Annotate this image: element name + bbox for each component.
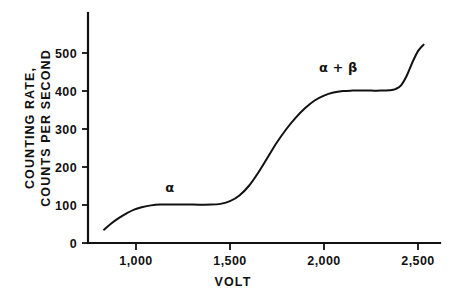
y-axis-ticks: 0100200300400500 <box>55 47 88 251</box>
y-axis-title-line2: COUNTS PER SECOND <box>39 49 53 207</box>
x-tick-label: 1,500 <box>213 254 246 268</box>
x-axis-title: VOLT <box>215 275 252 289</box>
alpha-plus-beta-plateau-label: α + β <box>319 60 357 75</box>
y-tick-label: 400 <box>55 85 77 99</box>
alpha-plateau-label: α <box>165 180 174 195</box>
y-tick-label: 100 <box>55 199 77 213</box>
counting-rate-curve <box>104 45 424 230</box>
x-axis-ticks: 1,0001,5002,0002,500 <box>119 243 434 268</box>
chart-canvas: 0100200300400500 1,0001,5002,0002,500 αα… <box>0 0 451 296</box>
x-tick-label: 2,000 <box>307 254 340 268</box>
x-tick-label: 2,500 <box>401 254 434 268</box>
y-axis-title-group: COUNTING RATE, COUNTS PER SECOND <box>23 49 53 207</box>
curve-annotations: αα + β <box>165 60 357 195</box>
y-tick-label: 300 <box>55 123 77 137</box>
x-tick-label: 1,000 <box>119 254 152 268</box>
y-tick-label: 200 <box>55 161 77 175</box>
y-tick-label: 500 <box>55 47 77 61</box>
y-axis-title-line1: COUNTING RATE, <box>23 67 37 189</box>
y-tick-label: 0 <box>70 237 77 251</box>
